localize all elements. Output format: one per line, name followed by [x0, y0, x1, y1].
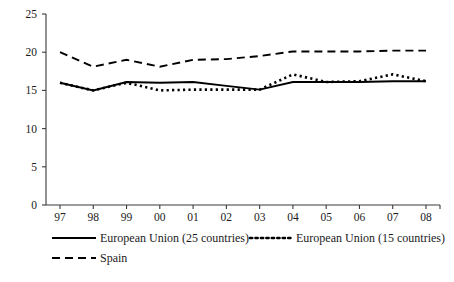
legend-label-3: Spain: [100, 251, 127, 265]
x-tick-label: 02: [221, 211, 233, 223]
x-tick-label: 03: [254, 211, 266, 223]
data-series-group: [60, 51, 426, 91]
x-tick-label: 07: [387, 211, 399, 223]
y-tick-label: 25: [26, 8, 38, 20]
x-tick-label: 06: [354, 211, 366, 223]
y-tick-label: 5: [31, 161, 37, 173]
legend-label-1: European Union (25 countries): [100, 231, 249, 245]
x-tick-label: 00: [154, 211, 166, 223]
chart-legend: European Union (25 countries)European Un…: [52, 231, 445, 265]
x-tick-label: 05: [320, 211, 332, 223]
legend-label-2: European Union (15 countries): [296, 231, 445, 245]
y-axis-tick-marks: [42, 14, 46, 205]
y-tick-label: 10: [26, 123, 38, 135]
chart-canvas: 0510152025 979899000102030405060708 Euro…: [0, 0, 454, 282]
x-axis-tick-marks: [60, 205, 440, 209]
x-tick-label: 97: [54, 211, 66, 223]
y-tick-label: 0: [31, 199, 37, 211]
x-tick-label: 99: [121, 211, 133, 223]
x-tick-label: 08: [420, 211, 432, 223]
y-axis-tick-labels: 0510152025: [26, 8, 38, 211]
x-axis-tick-labels: 979899000102030405060708: [54, 211, 432, 223]
x-tick-label: 01: [187, 211, 199, 223]
x-tick-label: 04: [287, 211, 299, 223]
y-tick-label: 20: [26, 46, 38, 58]
series-line-3: [60, 51, 426, 67]
line-chart-figure: 0510152025 979899000102030405060708 Euro…: [0, 0, 454, 282]
x-tick-label: 98: [88, 211, 100, 223]
y-tick-label: 15: [26, 84, 38, 96]
